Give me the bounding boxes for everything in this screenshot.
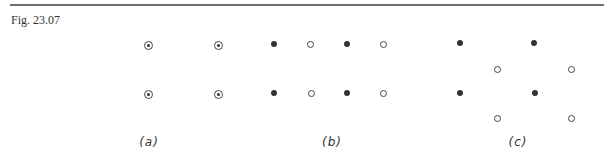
open-circle-icon <box>568 66 575 73</box>
filled-circle-icon <box>532 90 538 96</box>
panel-label-a: (a) <box>139 135 159 149</box>
filled-circle-icon <box>344 41 350 47</box>
open-circle-icon <box>494 66 501 73</box>
filled-circle-icon <box>271 41 277 47</box>
open-circle-icon <box>568 115 575 122</box>
filled-circle-icon <box>344 90 350 96</box>
open-circle-icon <box>380 90 387 97</box>
dotted-circle-icon <box>144 41 153 50</box>
filled-circle-icon <box>457 40 463 46</box>
open-circle-icon <box>380 41 387 48</box>
panel-label-b: (b) <box>322 135 342 149</box>
dotted-circle-icon <box>214 41 223 50</box>
figure-caption: Fig. 23.07 <box>11 13 60 28</box>
open-circle-icon <box>494 115 501 122</box>
filled-circle-icon <box>531 40 537 46</box>
top-rule <box>10 4 604 6</box>
filled-circle-icon <box>457 90 463 96</box>
dotted-circle-icon <box>144 90 153 99</box>
panel-label-c: (c) <box>509 135 528 149</box>
filled-circle-icon <box>271 90 277 96</box>
dotted-circle-icon <box>214 90 223 99</box>
open-circle-icon <box>308 90 315 97</box>
open-circle-icon <box>307 41 314 48</box>
